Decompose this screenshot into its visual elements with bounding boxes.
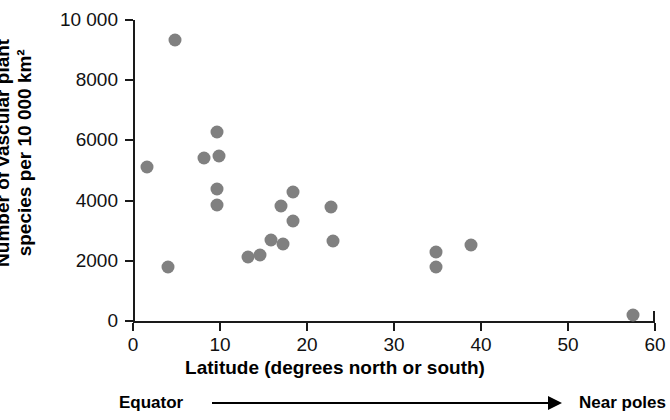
data-point [276,237,289,250]
x-tick-0 [132,323,134,331]
y-tick-label-0: 0 [107,310,118,332]
y-tick-10000 [125,19,133,21]
data-point [210,198,223,211]
data-point [168,33,181,46]
right-arrow-icon-head [548,396,562,410]
x-tick-label-30: 30 [383,334,404,356]
data-point [327,235,340,248]
x-tick-label-50: 50 [557,334,578,356]
y-axis-title-line2: species per 10 000 km² [14,49,35,256]
x-tick-30 [393,323,395,331]
y-tick-0 [125,320,133,322]
data-point [274,199,287,212]
x-tick-label-20: 20 [296,334,317,356]
x-tick-label-10: 10 [209,334,230,356]
y-tick-label-6000: 6000 [76,129,118,151]
right-arrow-icon-shaft [212,402,554,404]
x-tick-50 [567,323,569,331]
y-tick-label-10000: 10 000 [60,9,118,31]
y-axis-title: Number of vascular plant species per 10 … [0,0,36,333]
data-point [140,160,153,173]
x-tick-10 [219,323,221,331]
y-tick-label-8000: 8000 [76,69,118,91]
data-point [198,151,211,164]
data-point [429,261,442,274]
x-tick-label-40: 40 [470,334,491,356]
data-point [241,250,254,263]
scatter-plot-figure: 0102030405060 0200040006000800010 000 Nu… [0,0,670,420]
data-point [287,215,300,228]
x-tick-40 [480,323,482,331]
y-tick-6000 [125,139,133,141]
x-tick-label-0: 0 [128,334,139,356]
data-point [465,238,478,251]
data-point [325,200,338,213]
y-axis-line [133,20,135,323]
y-tick-label-2000: 2000 [76,250,118,272]
x-axis-endcap [653,311,655,323]
equator-label: Equator [119,393,183,413]
y-tick-4000 [125,200,133,202]
data-point [161,261,174,274]
y-tick-label-4000: 4000 [76,190,118,212]
data-point [210,182,223,195]
y-axis-title-line1: Number of vascular plant [0,39,13,267]
y-tick-2000 [125,260,133,262]
data-point [210,125,223,138]
data-point [213,150,226,163]
data-point [287,185,300,198]
x-axis-title: Latitude (degrees north or south) [0,357,670,379]
latitude-gradient-annotation: Equator Near poles [0,390,670,416]
x-tick-20 [306,323,308,331]
near-poles-label: Near poles [579,393,666,413]
plot-area: 0102030405060 0200040006000800010 000 [133,20,655,321]
data-point [254,248,267,261]
y-tick-8000 [125,79,133,81]
data-point [627,308,640,321]
x-tick-label-60: 60 [644,334,665,356]
data-point [429,246,442,259]
x-tick-60 [654,323,656,331]
